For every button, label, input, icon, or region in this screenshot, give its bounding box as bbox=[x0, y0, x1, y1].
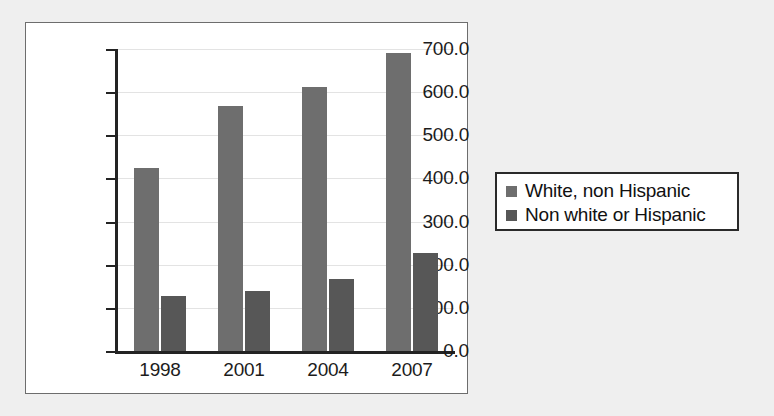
x-axis-tick-label: 1998 bbox=[115, 359, 205, 381]
bar bbox=[245, 291, 270, 351]
y-axis-tick-mark bbox=[106, 222, 116, 224]
legend-entry: White, non Hispanic bbox=[506, 179, 737, 203]
legend-entry: Non white or Hispanic bbox=[506, 203, 737, 227]
x-axis-tick-label: 2001 bbox=[199, 359, 289, 381]
bar bbox=[386, 53, 411, 351]
chart-legend: White, non Hispanic Non white or Hispani… bbox=[495, 172, 739, 231]
legend-swatch-icon bbox=[506, 186, 517, 197]
legend-swatch-icon bbox=[506, 210, 517, 221]
bar-group bbox=[302, 49, 354, 351]
chart-plot-area: 700.0600.0500.0400.0300.0200.0100.00.0 1… bbox=[26, 23, 469, 395]
chart-screenshot: 700.0600.0500.0400.0300.0200.0100.00.0 1… bbox=[0, 0, 774, 416]
x-axis-tick-label: 2004 bbox=[283, 359, 373, 381]
y-axis-tick-mark bbox=[106, 265, 116, 267]
bar bbox=[218, 106, 243, 351]
y-axis-tick-mark bbox=[106, 92, 116, 94]
bar bbox=[134, 168, 159, 351]
legend-entry-label: White, non Hispanic bbox=[525, 180, 690, 202]
bar-group bbox=[218, 49, 270, 351]
bar bbox=[302, 87, 327, 351]
y-axis-tick-mark bbox=[106, 351, 116, 353]
bar bbox=[413, 253, 438, 351]
bar bbox=[329, 279, 354, 351]
legend-entry-label: Non white or Hispanic bbox=[525, 204, 706, 226]
y-axis-tick-mark bbox=[106, 135, 116, 137]
x-axis-tick-label: 2007 bbox=[367, 359, 457, 381]
y-axis-tick-mark bbox=[106, 308, 116, 310]
bar-group bbox=[386, 49, 438, 351]
bar bbox=[161, 296, 186, 351]
bars-layer bbox=[118, 49, 454, 351]
y-axis-tick-mark bbox=[106, 49, 116, 51]
plot-frame: 700.0600.0500.0400.0300.0200.0100.00.0 1… bbox=[25, 22, 468, 394]
bar-group bbox=[134, 49, 186, 351]
y-axis-tick-mark bbox=[106, 178, 116, 180]
